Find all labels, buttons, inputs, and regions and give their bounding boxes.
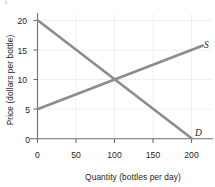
supply-curve-label: S	[204, 40, 209, 50]
x-tick-label-50: 50	[65, 150, 87, 160]
x-tick-label-200: 200	[181, 150, 203, 160]
x-tick-marks	[38, 139, 192, 143]
x-tick-label-0: 0	[27, 150, 49, 160]
x-tick-label-100: 100	[104, 150, 126, 160]
demand-curve-label: D	[195, 128, 202, 138]
cropped-glyph-fragment	[4, 0, 8, 4]
y-tick-label-10: 10	[11, 75, 27, 85]
y-tick-label-20: 20	[11, 16, 27, 26]
x-tick-label-150: 150	[142, 150, 164, 160]
supply-demand-chart: Price (dollars per bottle) Quantity (bot…	[0, 0, 215, 187]
y-tick-label-15: 15	[11, 46, 27, 56]
y-tick-label-0: 0	[14, 135, 30, 145]
y-tick-label-5: 5	[14, 105, 30, 115]
supply-curve	[38, 46, 203, 110]
x-axis-title: Quantity (bottles per day)	[55, 172, 211, 182]
y-tick-marks	[34, 21, 38, 110]
